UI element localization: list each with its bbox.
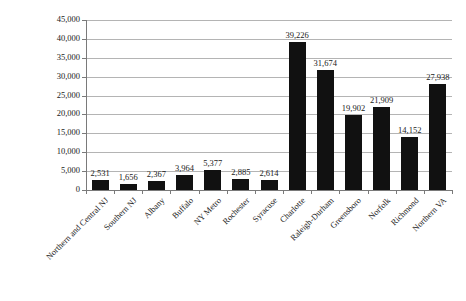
x-tick-mark <box>199 190 200 194</box>
bar <box>373 107 390 190</box>
gridline <box>86 20 452 21</box>
x-tick-mark <box>452 190 453 194</box>
y-tick-label: 25,000 <box>8 91 80 100</box>
y-tick-label-wrap: 5,000 <box>0 166 80 175</box>
bar <box>401 137 418 190</box>
y-tick-label-wrap: 35,000 <box>0 53 80 62</box>
bar <box>176 175 193 190</box>
y-tick-label-wrap: 0 <box>0 185 80 194</box>
y-tick-label-wrap: 45,000 <box>0 15 80 24</box>
bar <box>429 84 446 190</box>
bar-chart: 05,00010,00015,00020,00025,00030,00035,0… <box>0 0 466 301</box>
bar-value-label: 21,909 <box>362 96 402 105</box>
y-tick-label: 35,000 <box>8 53 80 62</box>
x-tick-mark <box>142 190 143 194</box>
gridline <box>86 114 452 115</box>
y-tick-label: 10,000 <box>8 147 80 156</box>
x-tick-mark <box>368 190 369 194</box>
x-tick-mark <box>283 190 284 194</box>
bar-value-label: 31,674 <box>305 59 345 68</box>
x-tick-mark <box>255 190 256 194</box>
y-tick-label-wrap: 15,000 <box>0 128 80 137</box>
gridline <box>86 77 452 78</box>
x-tick-mark <box>227 190 228 194</box>
bar <box>261 180 278 190</box>
y-tick-label: 45,000 <box>8 15 80 24</box>
x-axis-line <box>86 190 452 191</box>
y-tick-label: 15,000 <box>8 128 80 137</box>
bar <box>317 70 334 190</box>
bar-value-label: 27,938 <box>418 73 458 82</box>
x-axis-category-label: Northern and Central NJ <box>45 196 111 262</box>
x-tick-mark <box>339 190 340 194</box>
bar-value-label: 39,226 <box>277 31 317 40</box>
y-tick-label: 40,000 <box>8 34 80 43</box>
bar-value-label: 14,152 <box>390 126 430 135</box>
y-tick-label-wrap: 20,000 <box>0 109 80 118</box>
bar <box>345 115 362 190</box>
x-axis-category-label: Albany <box>143 196 167 220</box>
x-tick-mark <box>424 190 425 194</box>
y-tick-label-wrap: 25,000 <box>0 91 80 100</box>
x-tick-mark <box>311 190 312 194</box>
y-tick-label-wrap: 10,000 <box>0 147 80 156</box>
y-tick-label: 0 <box>8 185 80 194</box>
y-tick-label-wrap: 30,000 <box>0 72 80 81</box>
bar <box>148 181 165 190</box>
x-axis-category-label: NY Metro <box>192 196 223 227</box>
y-tick-label-wrap: 40,000 <box>0 34 80 43</box>
x-tick-mark <box>114 190 115 194</box>
gridline <box>86 39 452 40</box>
bar <box>204 170 221 190</box>
x-axis-category-label: Rochester <box>221 196 251 226</box>
bar <box>232 179 249 190</box>
bar-value-label: 2,614 <box>249 169 289 178</box>
x-axis-category-label: Buffalo <box>170 196 195 221</box>
gridline <box>86 152 452 153</box>
y-axis-line <box>86 20 87 191</box>
x-tick-mark <box>86 190 87 194</box>
bar <box>92 180 109 190</box>
x-tick-mark <box>170 190 171 194</box>
x-axis-category-label: Syracuse <box>251 196 279 224</box>
bar-value-label: 5,377 <box>193 159 233 168</box>
y-tick-label: 20,000 <box>8 109 80 118</box>
x-axis-category-label: Norfolk <box>366 196 391 221</box>
bar <box>289 42 306 190</box>
y-tick-label: 5,000 <box>8 166 80 175</box>
gridline <box>86 58 452 59</box>
y-tick-label: 30,000 <box>8 72 80 81</box>
x-tick-mark <box>396 190 397 194</box>
